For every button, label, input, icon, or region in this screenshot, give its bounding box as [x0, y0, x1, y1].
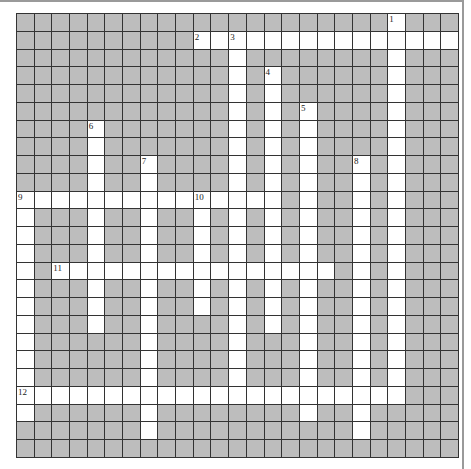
- grid-cell-open[interactable]: [17, 298, 34, 315]
- grid-cell-open[interactable]: [194, 280, 211, 297]
- grid-cell-open[interactable]: [229, 192, 246, 209]
- grid-cell-open[interactable]: [300, 227, 317, 244]
- grid-cell-open[interactable]: 11: [52, 263, 69, 280]
- grid-cell-open[interactable]: 4: [265, 67, 282, 84]
- grid-cell-open[interactable]: [300, 334, 317, 351]
- grid-cell-open[interactable]: [17, 316, 34, 333]
- grid-cell-open[interactable]: [158, 192, 175, 209]
- grid-cell-open[interactable]: [282, 263, 299, 280]
- grid-cell-open[interactable]: [70, 263, 87, 280]
- grid-cell-open[interactable]: [300, 209, 317, 226]
- grid-cell-open[interactable]: [353, 280, 370, 297]
- grid-cell-open[interactable]: [353, 422, 370, 439]
- grid-cell-open[interactable]: [158, 263, 175, 280]
- grid-cell-open[interactable]: [441, 32, 458, 49]
- grid-cell-open[interactable]: [123, 263, 140, 280]
- grid-cell-open[interactable]: [70, 387, 87, 404]
- grid-cell-open[interactable]: [388, 280, 405, 297]
- grid-cell-open[interactable]: [388, 387, 405, 404]
- grid-cell-open[interactable]: [353, 227, 370, 244]
- grid-cell-open[interactable]: 12: [17, 387, 34, 404]
- grid-cell-open[interactable]: [141, 245, 158, 262]
- grid-cell-open[interactable]: [17, 227, 34, 244]
- grid-cell-open[interactable]: [282, 32, 299, 49]
- grid-cell-open[interactable]: [35, 192, 52, 209]
- grid-cell-open[interactable]: [88, 387, 105, 404]
- grid-cell-open[interactable]: [300, 263, 317, 280]
- grid-cell-open[interactable]: [229, 138, 246, 155]
- grid-cell-open[interactable]: [141, 174, 158, 191]
- grid-cell-open[interactable]: [141, 192, 158, 209]
- grid-cell-open[interactable]: [194, 298, 211, 315]
- grid-cell-open[interactable]: [388, 369, 405, 386]
- grid-cell-open[interactable]: [388, 263, 405, 280]
- grid-cell-open[interactable]: [265, 138, 282, 155]
- grid-cell-open[interactable]: [141, 227, 158, 244]
- grid-cell-open[interactable]: [229, 351, 246, 368]
- grid-cell-open[interactable]: [158, 387, 175, 404]
- grid-cell-open[interactable]: [300, 32, 317, 49]
- grid-cell-open[interactable]: [229, 174, 246, 191]
- grid-cell-open[interactable]: [388, 298, 405, 315]
- grid-cell-open[interactable]: [300, 174, 317, 191]
- grid-cell-open[interactable]: [123, 387, 140, 404]
- grid-cell-open[interactable]: [300, 280, 317, 297]
- grid-cell-open[interactable]: [265, 387, 282, 404]
- grid-cell-open[interactable]: [229, 334, 246, 351]
- grid-cell-open[interactable]: [229, 85, 246, 102]
- grid-cell-open[interactable]: [388, 351, 405, 368]
- grid-cell-open[interactable]: [388, 121, 405, 138]
- grid-cell-open[interactable]: [388, 334, 405, 351]
- grid-cell-open[interactable]: [88, 192, 105, 209]
- grid-cell-open[interactable]: [318, 387, 335, 404]
- grid-cell-open[interactable]: [17, 334, 34, 351]
- grid-cell-open[interactable]: [229, 298, 246, 315]
- grid-cell-open[interactable]: [229, 121, 246, 138]
- grid-cell-open[interactable]: [265, 298, 282, 315]
- grid-cell-open[interactable]: [388, 156, 405, 173]
- grid-cell-open[interactable]: [105, 263, 122, 280]
- grid-cell-open[interactable]: [247, 263, 264, 280]
- grid-cell-open[interactable]: [318, 263, 335, 280]
- grid-cell-open[interactable]: [388, 67, 405, 84]
- grid-cell-open[interactable]: 3: [229, 32, 246, 49]
- grid-cell-open[interactable]: [300, 405, 317, 422]
- grid-cell-open[interactable]: [17, 351, 34, 368]
- grid-cell-open[interactable]: [265, 316, 282, 333]
- grid-cell-open[interactable]: [141, 422, 158, 439]
- grid-cell-open[interactable]: [211, 263, 228, 280]
- grid-cell-open[interactable]: [388, 85, 405, 102]
- grid-cell-open[interactable]: [388, 227, 405, 244]
- grid-cell-open[interactable]: [17, 245, 34, 262]
- grid-cell-open[interactable]: [300, 316, 317, 333]
- grid-cell-open[interactable]: [265, 32, 282, 49]
- grid-cell-open[interactable]: [88, 280, 105, 297]
- grid-cell-open[interactable]: [265, 245, 282, 262]
- grid-cell-open[interactable]: 7: [141, 156, 158, 173]
- grid-cell-open[interactable]: [388, 192, 405, 209]
- grid-cell-open[interactable]: [229, 263, 246, 280]
- grid-cell-open[interactable]: [388, 32, 405, 49]
- grid-cell-open[interactable]: [88, 298, 105, 315]
- grid-cell-open[interactable]: [371, 32, 388, 49]
- grid-cell-open[interactable]: [229, 156, 246, 173]
- grid-cell-open[interactable]: [229, 50, 246, 67]
- grid-cell-open[interactable]: [88, 245, 105, 262]
- grid-cell-open[interactable]: [353, 316, 370, 333]
- grid-cell-open[interactable]: [229, 67, 246, 84]
- grid-cell-open[interactable]: [265, 174, 282, 191]
- grid-cell-open[interactable]: [88, 174, 105, 191]
- grid-cell-open[interactable]: [52, 387, 69, 404]
- grid-cell-open[interactable]: [211, 192, 228, 209]
- grid-cell-open[interactable]: [88, 316, 105, 333]
- grid-cell-open[interactable]: [194, 227, 211, 244]
- grid-cell-open[interactable]: [141, 351, 158, 368]
- grid-cell-open[interactable]: [229, 387, 246, 404]
- grid-cell-open[interactable]: [424, 32, 441, 49]
- grid-cell-open[interactable]: [406, 32, 423, 49]
- grid-cell-open[interactable]: [70, 192, 87, 209]
- grid-cell-open[interactable]: [388, 50, 405, 67]
- grid-cell-open[interactable]: [194, 263, 211, 280]
- grid-cell-open[interactable]: [17, 369, 34, 386]
- grid-cell-open[interactable]: [88, 138, 105, 155]
